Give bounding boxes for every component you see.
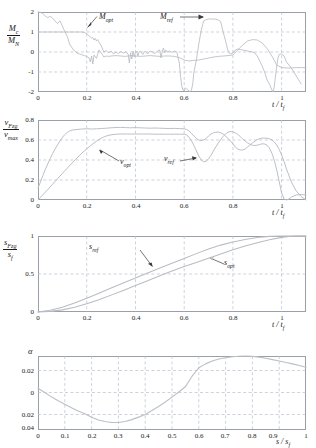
x-axis-label-velocity: t / tf (272, 208, 284, 219)
plot-area-distance (38, 236, 306, 312)
x-tick-alpha-4: 0.4 (138, 432, 152, 440)
x-tick-alpha-2: 0.2 (85, 432, 99, 440)
y-axis-label-alpha: α (28, 346, 32, 356)
x-axis-label-alpha: s / sf (276, 437, 290, 448)
annotation-v-opt: vopt (120, 157, 131, 168)
arrow-head-sref (148, 263, 153, 267)
annotation-v-ref: vref (164, 154, 174, 165)
x-tick-torque-3: 0.6 (176, 94, 192, 102)
plot-area-alpha (38, 356, 306, 430)
y-tick-velocity-2: 0.4 (14, 156, 34, 164)
arrow-head-mref (199, 15, 205, 20)
curve-v-opt (38, 132, 306, 201)
x-tick-alpha-7: 0.7 (218, 432, 232, 440)
x-tick-distance-1: 0.2 (79, 314, 95, 322)
arrow-head-sopt (209, 257, 214, 260)
x-tick-velocity-0: 0 (30, 202, 46, 210)
gridlines-alpha (38, 356, 306, 430)
x-axis-label-distance: t / tf (272, 320, 284, 331)
gridlines-distance (38, 236, 306, 312)
x-tick-alpha-0: 0 (31, 432, 45, 440)
x-tick-alpha-8: 0.8 (245, 432, 259, 440)
x-tick-distance-3: 0.6 (176, 314, 192, 322)
annotation-arrows-velocity (99, 149, 197, 161)
y-tick-alpha-0: 0.02 (9, 367, 34, 375)
curve-m-ref (38, 19, 301, 92)
annotation-m-ref: Mref (160, 12, 173, 23)
arrow-head-mopt (88, 22, 92, 27)
arrow-line-vopt (100, 150, 119, 161)
plot-area-torque (38, 12, 306, 92)
x-axis-label-torque: t / tf (272, 100, 284, 111)
panel-distance-ratio: sFzg sf 1 0.5 0 sref (0, 222, 316, 330)
y-tick-torque-3: -1 (16, 68, 34, 76)
y-tick-distance-0: 1 (16, 232, 34, 240)
y-tick-velocity-1: 0.6 (14, 136, 34, 144)
x-tick-torque-2: 0.4 (128, 94, 144, 102)
annotation-s-opt: sopt (224, 258, 234, 269)
x-tick-torque-4: 0.8 (225, 94, 241, 102)
y-tick-velocity-3: 0.2 (14, 176, 34, 184)
plot-svg-torque (38, 12, 306, 92)
y-tick-alpha-1: 0 (9, 389, 34, 397)
panel-torque-ratio: Mc MN 2 1 0 -1 -2 (0, 0, 316, 110)
y-label-denominator-sub: N (15, 41, 19, 47)
annotation-m-opt: Mopt (99, 12, 113, 23)
x-tick-alpha-3: 0.3 (111, 432, 125, 440)
y-tick-alpha-2: 0.02 (9, 411, 34, 419)
y-axis-label-distance: sFzg sf (3, 238, 17, 261)
y-label-numerator: M (9, 23, 16, 33)
y-tick-torque-0: 2 (18, 8, 34, 16)
panel-alpha-gradient: α 0.02 0 0.02 0.04 0 0.1 0.2 0. (0, 340, 316, 446)
annotation-arrows-distance (140, 250, 224, 267)
x-tick-distance-4: 0.8 (225, 314, 241, 322)
panel-velocity-ratio: vFzg vmax 0.8 0.6 0.4 0.2 0 (0, 112, 316, 220)
y-label-numerator-sub: Fzg (7, 243, 16, 249)
x-tick-velocity-3: 0.6 (176, 202, 192, 210)
x-tick-torque-0: 0 (30, 94, 46, 102)
y-tick-velocity-0: 0.8 (14, 116, 34, 124)
plot-svg-alpha (38, 356, 306, 430)
x-tick-alpha-10: 1 (299, 432, 313, 440)
y-tick-distance-1: 0.5 (14, 270, 34, 278)
x-tick-alpha-6: 0.6 (192, 432, 206, 440)
x-tick-velocity-1: 0.2 (79, 202, 95, 210)
y-tick-torque-2: 0 (18, 48, 34, 56)
plot-svg-distance (38, 236, 306, 312)
y-tick-torque-1: 1 (18, 28, 34, 36)
x-tick-alpha-5: 0.5 (165, 432, 179, 440)
annotation-s-ref: sref (89, 242, 98, 253)
y-tick-alpha-3: 0.04 (9, 424, 34, 432)
x-tick-distance-0: 0 (30, 314, 46, 322)
y-label-denominator-sub: f (11, 255, 13, 261)
x-tick-velocity-4: 0.8 (225, 202, 241, 210)
arrow-head-vopt (99, 149, 103, 154)
x-tick-alpha-1: 0.1 (58, 432, 72, 440)
x-tick-velocity-2: 0.4 (128, 202, 144, 210)
x-tick-torque-1: 0.2 (79, 94, 95, 102)
x-tick-distance-2: 0.4 (128, 314, 144, 322)
